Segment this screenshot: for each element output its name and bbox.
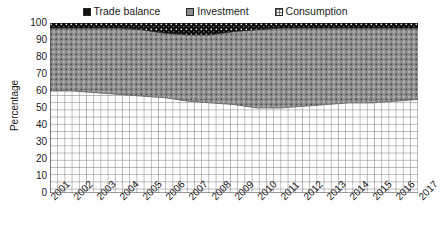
legend-label-consumption: Consumption <box>286 6 348 17</box>
y-tick-label: 50 <box>36 103 47 113</box>
plot-area <box>50 23 418 193</box>
y-tick-label: 30 <box>36 137 47 147</box>
legend-item-consumption: Consumption <box>275 6 348 17</box>
plot-svg <box>50 23 418 193</box>
y-tick-label: 20 <box>36 154 47 164</box>
y-axis-tick-labels: 1009080706050403020100 <box>18 23 47 193</box>
legend-label-investment: Investment <box>197 6 248 17</box>
y-tick-label: 10 <box>36 171 47 181</box>
y-tick-label: 60 <box>36 86 47 96</box>
y-tick-label: 90 <box>36 35 47 45</box>
chart-legend: Trade balance Investment Consumption <box>0 4 430 19</box>
y-tick-label: 70 <box>36 69 47 79</box>
legend-item-investment: Investment <box>186 6 248 17</box>
y-tick-label: 0 <box>41 188 47 198</box>
y-tick-label: 80 <box>36 52 47 62</box>
investment-swatch <box>186 8 194 16</box>
x-axis-tick-labels: 2001200220032004200520062007200820092010… <box>50 195 418 237</box>
legend-label-trade-balance: Trade balance <box>94 6 161 17</box>
y-tick-label: 40 <box>36 120 47 130</box>
consumption-swatch <box>275 8 283 16</box>
legend-item-trade-balance: Trade balance <box>83 6 161 17</box>
x-tick-label: 2017 <box>417 179 440 202</box>
trade-balance-swatch <box>83 8 91 16</box>
y-tick-label: 100 <box>30 18 47 28</box>
